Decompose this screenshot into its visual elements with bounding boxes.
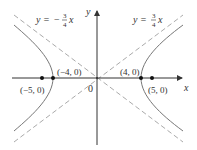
vertex-left-label: (−4, 0): [57, 67, 82, 77]
asymptote-positive-label: y = 3 4 x: [132, 12, 163, 29]
vertex-right-point: [139, 76, 143, 80]
focus-left-point: [40, 76, 44, 80]
origin-label: 0: [88, 83, 93, 94]
focus-left-label: (−5, 0): [20, 85, 45, 95]
vertex-left-point: [51, 76, 55, 80]
svg-text:x: x: [157, 14, 163, 25]
svg-text:y =: y =: [132, 14, 147, 25]
svg-text:y =: y =: [35, 14, 50, 25]
vertex-right-label: (4, 0): [120, 67, 140, 77]
focus-right-label: (5, 0): [148, 85, 168, 95]
hyperbola-diagram: y x 0 (−5, 0) (−4, 0) (4, 0) (5, 0) y = …: [0, 0, 197, 150]
y-axis-label: y: [85, 6, 91, 17]
svg-text:4: 4: [63, 21, 67, 29]
origin-point: [96, 77, 98, 79]
svg-text:3: 3: [63, 12, 67, 20]
svg-text:x: x: [68, 14, 74, 25]
asymptote-negative-label: y = − 3 4 x: [35, 12, 74, 29]
svg-text:3: 3: [152, 12, 156, 20]
svg-text:4: 4: [152, 21, 156, 29]
x-axis-label: x: [183, 82, 189, 93]
svg-text:−: −: [54, 14, 60, 25]
focus-right-point: [150, 76, 154, 80]
